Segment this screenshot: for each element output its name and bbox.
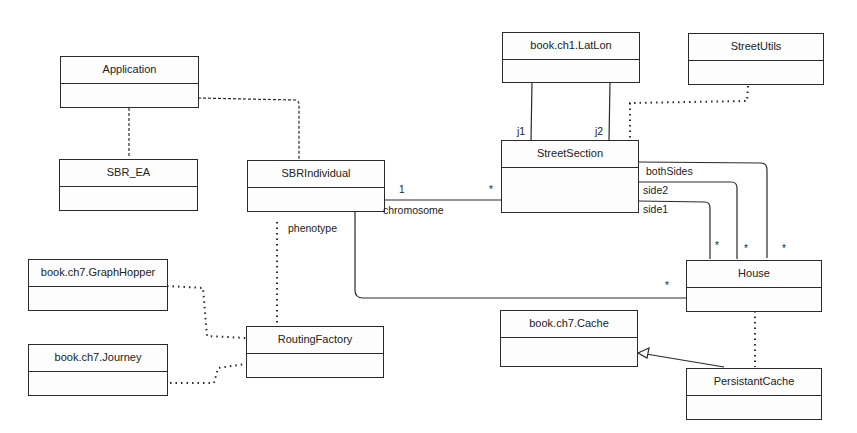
multiplicity-one: 1 <box>399 184 405 195</box>
class-name: Application <box>61 57 198 84</box>
association-sbrindividual-house <box>355 211 686 298</box>
class-name: book.ch1.LatLon <box>503 33 639 60</box>
role-label-side2: side2 <box>643 184 668 196</box>
class-name: StreetUtils <box>689 34 823 61</box>
role-label-phenotype: phenotype <box>288 222 337 234</box>
dependency-streetutils <box>630 86 748 141</box>
class-sbr-ea[interactable]: SBR_EA <box>59 159 198 211</box>
class-sbrindividual[interactable]: SBRIndividual <box>247 160 385 212</box>
role-label-j1: j1 <box>517 125 525 137</box>
class-streetsection[interactable]: StreetSection <box>501 140 639 213</box>
class-name: book.ch7.GraphHopper <box>29 260 167 287</box>
generalization-arrowhead-icon <box>638 348 649 358</box>
class-streetutils[interactable]: StreetUtils <box>688 33 824 85</box>
multiplicity-star-streetsection: * <box>489 184 493 195</box>
class-name: StreetSection <box>502 141 638 168</box>
class-persistantcache[interactable]: PersistantCache <box>686 368 822 420</box>
role-label-bothsides: bothSides <box>646 165 693 177</box>
class-graphhopper[interactable]: book.ch7.GraphHopper <box>28 259 168 311</box>
class-application[interactable]: Application <box>60 56 199 108</box>
multiplicity-star-side2: * <box>744 243 748 254</box>
dependency-graphhopper <box>167 286 246 338</box>
multiplicity-star-bothsides: * <box>782 243 786 254</box>
class-name: book.ch7.Cache <box>501 311 637 338</box>
class-latlon[interactable]: book.ch1.LatLon <box>502 32 640 83</box>
class-name: House <box>687 261 821 288</box>
dependency-application-sbrindividual <box>198 98 299 159</box>
role-label-chromosome: chromosome <box>383 204 444 216</box>
class-journey[interactable]: book.ch7.Journey <box>28 344 168 396</box>
class-name: SBR_EA <box>60 160 197 187</box>
class-house[interactable]: House <box>686 260 822 312</box>
class-name: SBRIndividual <box>248 161 384 188</box>
multiplicity-star-side1: * <box>715 240 719 251</box>
role-label-side1: side1 <box>643 203 668 215</box>
role-label-j2: j2 <box>595 125 603 137</box>
dependency-journey <box>170 364 246 383</box>
class-cache[interactable]: book.ch7.Cache <box>500 310 638 367</box>
generalization-persistantcache-cache <box>646 354 724 367</box>
class-name: book.ch7.Journey <box>29 345 167 372</box>
multiplicity-star-house: * <box>665 280 669 291</box>
class-name: RoutingFactory <box>247 327 383 354</box>
association-j1 <box>531 82 532 141</box>
class-name: PersistantCache <box>687 369 821 396</box>
class-routingfactory[interactable]: RoutingFactory <box>246 326 384 378</box>
association-j2 <box>609 82 610 141</box>
